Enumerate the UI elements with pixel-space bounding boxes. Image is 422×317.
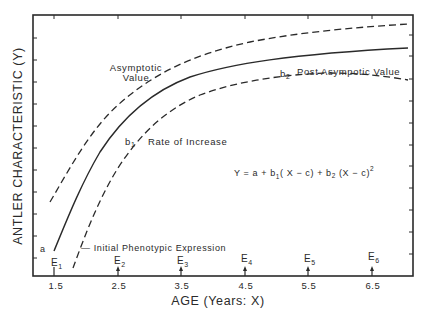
x-tick-label: 5.5 (301, 280, 316, 291)
x-tick-label: 2.5 (111, 280, 126, 291)
x-tick-label: 3.5 (174, 280, 189, 291)
event-label-e3: E3 (177, 255, 189, 268)
annotation-a: a (40, 244, 46, 254)
bottom-ticks (54, 266, 374, 276)
x-tick-label: 4.5 (238, 280, 253, 291)
event-label-e2: E2 (114, 255, 126, 268)
y-axis-label: ANTLER CHARACTERISTIC (Y) (11, 47, 25, 245)
solid-growth-curve (54, 48, 408, 251)
event-labels: E1 E2 E3 E4 E5 E6 (51, 251, 380, 270)
event-label-e4: E4 (241, 253, 253, 266)
event-label-e5: E5 (304, 253, 316, 266)
x-tick-label: 1.5 (48, 280, 63, 291)
annotation-b1: b1 (125, 136, 135, 148)
equation: Y = a + b1( X − c) + b2 (X − c)2 (234, 165, 374, 180)
x-axis-label: AGE (Years: X) (171, 294, 264, 308)
annotation-initial-phenotypic: — Initial Phenotypic Expression (81, 243, 226, 253)
event-label-e6: E6 (368, 251, 380, 264)
event-label-e1: E1 (51, 257, 63, 270)
annotation-b2: b2 (280, 68, 290, 80)
annotation-rate-of-increase: Rate of Increase (148, 136, 227, 147)
antler-growth-chart: ANTLER CHARACTERISTIC (Y) AGE (Years: X)… (0, 0, 422, 317)
annotation-post-asymptotic: Post Asympotic Value (297, 66, 400, 77)
annotation-value: Value (123, 72, 150, 83)
x-tick-label: 6.5 (365, 280, 380, 291)
x-tick-labels: 1.5 2.5 3.5 4.5 5.5 6.5 (48, 280, 380, 291)
